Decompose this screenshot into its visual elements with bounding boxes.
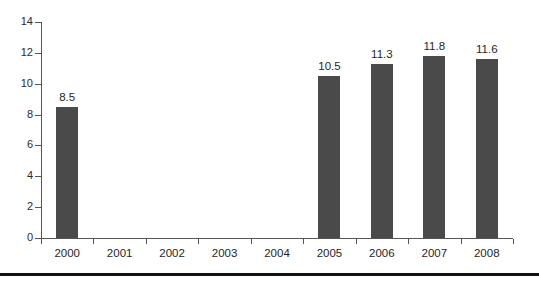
y-axis-tick-label: 4 xyxy=(0,170,33,181)
bar-2005 xyxy=(318,76,340,238)
y-axis-tick-label: 14 xyxy=(0,16,33,27)
bar-2000 xyxy=(56,107,78,238)
x-axis-tick xyxy=(198,239,199,244)
y-axis-tick-label-text: 14 xyxy=(3,16,33,27)
y-axis-tick-label: 0 xyxy=(0,232,33,243)
bars-layer: 8.510.511.311.811.6 xyxy=(41,22,513,238)
x-axis-tick xyxy=(251,239,252,244)
x-axis-tick xyxy=(93,239,94,244)
bar-value-label-2008: 11.6 xyxy=(462,43,512,55)
x-axis-label-2000: 2000 xyxy=(41,247,93,260)
x-axis-label-2006: 2006 xyxy=(356,247,408,260)
bar-value-label-2007: 11.8 xyxy=(409,40,459,52)
y-axis-tick-label: 12 xyxy=(0,47,33,58)
y-axis-tick-label-text: 4 xyxy=(3,170,33,181)
page-separator-rule xyxy=(0,273,539,276)
x-axis-label-2007: 2007 xyxy=(408,247,460,260)
y-axis-tick-label: 10 xyxy=(0,78,33,89)
y-axis-tick-label-text: 12 xyxy=(3,47,33,58)
x-axis-label-2002: 2002 xyxy=(146,247,198,260)
bar-chart-figure: 02468101214 8.510.511.311.811.6 20002001… xyxy=(0,0,539,284)
y-axis-tick-label: 2 xyxy=(0,201,33,212)
y-axis-tick-label: 6 xyxy=(0,139,33,150)
x-axis-label-2005: 2005 xyxy=(303,247,355,260)
bar-value-label-2005: 10.5 xyxy=(304,60,354,72)
x-axis-tick xyxy=(303,239,304,244)
y-axis-tick-label: 8 xyxy=(0,109,33,120)
x-axis-category-labels: 200020012002200320042005200620072008 xyxy=(41,247,513,263)
x-axis-tick xyxy=(146,239,147,244)
y-axis-tick-label-text: 6 xyxy=(3,139,33,150)
bar-2008 xyxy=(476,59,498,238)
y-axis-tick-label-text: 2 xyxy=(3,201,33,212)
x-axis-tick xyxy=(513,239,514,244)
y-axis-tick-label-text: 8 xyxy=(3,109,33,120)
x-axis-tick xyxy=(408,239,409,244)
bar-2006 xyxy=(371,64,393,238)
x-axis-label-2008: 2008 xyxy=(461,247,513,260)
y-axis-tick-label-text: 10 xyxy=(3,78,33,89)
x-axis-tick xyxy=(356,239,357,244)
x-axis-line xyxy=(41,238,513,239)
x-axis-tick xyxy=(461,239,462,244)
x-axis-label-2004: 2004 xyxy=(251,247,303,260)
x-axis-tick xyxy=(41,239,42,244)
bar-value-label-2000: 8.5 xyxy=(42,91,92,103)
x-axis-label-2001: 2001 xyxy=(94,247,146,260)
y-axis-tick-label-text: 0 xyxy=(3,232,33,243)
bar-value-label-2006: 11.3 xyxy=(357,48,407,60)
x-axis-label-2003: 2003 xyxy=(199,247,251,260)
bar-2007 xyxy=(423,56,445,238)
